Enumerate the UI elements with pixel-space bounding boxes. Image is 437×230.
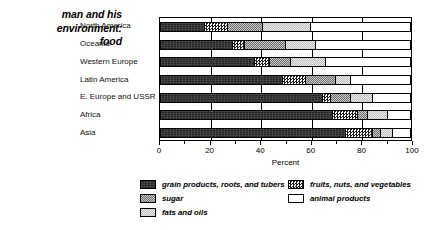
bar-segment — [245, 40, 285, 50]
legend-label: fats and oils — [162, 208, 208, 217]
bar-segment — [393, 128, 411, 138]
category-axis-labels: North AmericaOceaniaWestern EuropeLatin … — [78, 0, 156, 172]
bar-segment — [306, 75, 336, 85]
category-label: E. Europe and USSR — [80, 92, 156, 101]
bar-segment — [160, 57, 255, 67]
x-axis-tick — [361, 141, 362, 145]
bar-row — [160, 57, 411, 67]
x-axis-tick-label: 0 — [157, 146, 161, 155]
bar-segment — [228, 22, 263, 32]
x-axis-tick-label: 60 — [306, 146, 315, 155]
bar-segment — [311, 22, 411, 32]
stacked-bar — [160, 128, 411, 138]
x-axis-tick — [412, 141, 413, 145]
x-axis-minor-tick — [286, 141, 287, 144]
bar-segment — [351, 93, 374, 103]
legend-item: sugar — [140, 194, 183, 203]
bar-segment — [346, 128, 374, 138]
category-label: Oceania — [80, 39, 156, 48]
x-axis-tick — [210, 141, 211, 145]
plot-area — [159, 17, 412, 141]
bar-segment — [331, 93, 351, 103]
x-axis-tick — [311, 141, 312, 145]
bar-row — [160, 93, 411, 103]
x-axis-tick-label: 80 — [357, 146, 366, 155]
bar-row — [160, 75, 411, 85]
legend-swatch — [140, 180, 156, 189]
stacked-bar — [160, 57, 411, 67]
bar-segment — [255, 57, 270, 67]
x-axis-minor-tick — [387, 141, 388, 144]
x-axis-tick-label: 40 — [256, 146, 265, 155]
legend-swatch — [140, 194, 156, 203]
bar-segment — [373, 128, 381, 138]
bar-segment — [336, 75, 351, 85]
x-axis-minor-tick — [184, 141, 185, 144]
legend-item: fruits, nuts, and vegetables — [288, 180, 411, 189]
chart-legend: grain products, roots, and tuberssugarfa… — [140, 180, 430, 226]
bar-segment — [381, 128, 394, 138]
bar-segment — [283, 75, 306, 85]
stacked-bar — [160, 40, 411, 50]
bar-row — [160, 128, 411, 138]
legend-label: sugar — [162, 194, 183, 203]
bar-row — [160, 40, 411, 50]
category-label: Western Europe — [80, 57, 156, 66]
category-label: North America — [80, 21, 156, 30]
bar-segment — [160, 75, 283, 85]
x-axis-tick — [159, 141, 160, 145]
bar-segment — [205, 22, 228, 32]
legend-swatch — [140, 208, 156, 217]
bar-segment — [263, 22, 311, 32]
category-label: Asia — [80, 128, 156, 137]
bar-segment — [291, 57, 326, 67]
bar-segment — [373, 93, 411, 103]
bar-segment — [351, 75, 411, 85]
bar-segment — [160, 93, 323, 103]
legend-swatch — [288, 180, 304, 189]
legend-item: animal products — [288, 194, 370, 203]
bar-segment — [286, 40, 316, 50]
x-axis: 020406080100 — [159, 141, 412, 159]
stacked-bar — [160, 22, 411, 32]
x-axis-title: Percent — [159, 158, 412, 167]
x-axis-tick-label: 20 — [205, 146, 214, 155]
legend-item: grain products, roots, and tubers — [140, 180, 285, 189]
bar-row — [160, 22, 411, 32]
x-axis-tick-label: 100 — [405, 146, 418, 155]
bar-segment — [326, 57, 411, 67]
bar-segment — [358, 110, 368, 120]
bar-segment — [233, 40, 246, 50]
bar-row — [160, 110, 411, 120]
stacked-bar — [160, 110, 411, 120]
bar-segment — [160, 22, 205, 32]
stacked-bar — [160, 93, 411, 103]
bar-segment — [160, 40, 233, 50]
legend-swatch — [288, 194, 304, 203]
bar-segment — [368, 110, 388, 120]
bar-segment — [316, 40, 411, 50]
legend-item: fats and oils — [140, 208, 208, 217]
x-axis-minor-tick — [235, 141, 236, 144]
x-axis-tick — [260, 141, 261, 145]
stacked-bar — [160, 75, 411, 85]
bar-segment — [160, 110, 333, 120]
bar-segment — [333, 110, 358, 120]
bar-segment — [323, 93, 331, 103]
bar-segment — [388, 110, 411, 120]
legend-label: grain products, roots, and tubers — [162, 180, 285, 189]
x-axis-minor-tick — [336, 141, 337, 144]
bar-segment — [160, 128, 346, 138]
category-label: Latin America — [80, 75, 156, 84]
bar-segment — [270, 57, 290, 67]
category-label: Africa — [80, 110, 156, 119]
legend-label: fruits, nuts, and vegetables — [310, 180, 411, 189]
legend-label: animal products — [310, 194, 370, 203]
